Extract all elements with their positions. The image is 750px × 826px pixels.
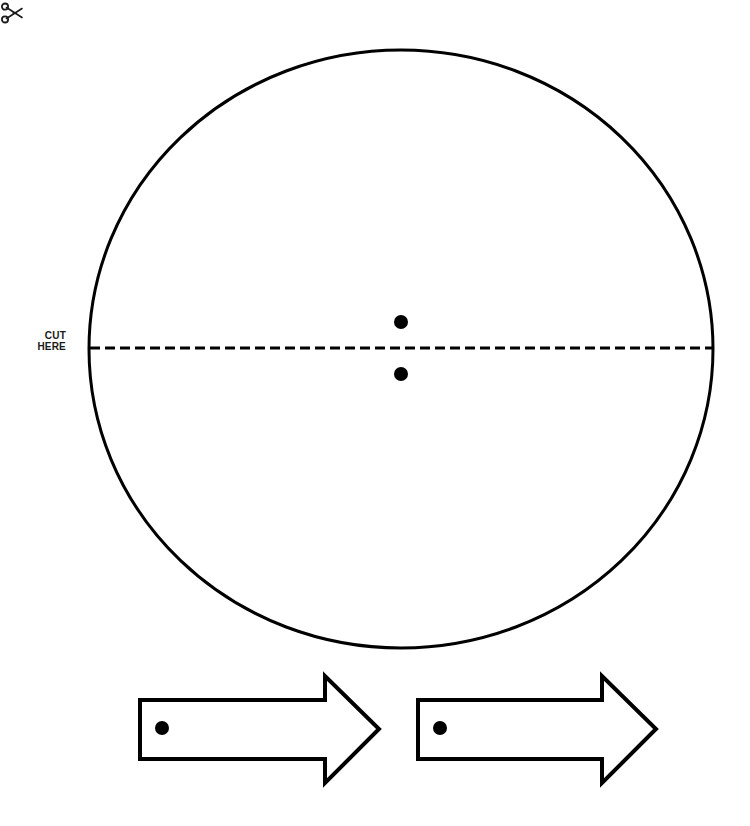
cut-here-label: CUT HERE (28, 330, 66, 352)
arrow-left-dot (155, 721, 169, 735)
arrow-left (140, 676, 379, 783)
template-drawing (0, 0, 750, 826)
worksheet-canvas: CUT HERE (0, 0, 750, 826)
scissors-icon (0, 0, 26, 26)
dot-upper (394, 315, 408, 329)
dot-lower (394, 367, 408, 381)
arrow-right (418, 676, 656, 783)
cut-label-line-1: CUT (28, 330, 66, 341)
arrow-left-outline (140, 676, 379, 783)
arrow-right-outline (418, 676, 656, 783)
cut-label-line-2: HERE (28, 341, 66, 352)
arrow-right-dot (433, 721, 447, 735)
